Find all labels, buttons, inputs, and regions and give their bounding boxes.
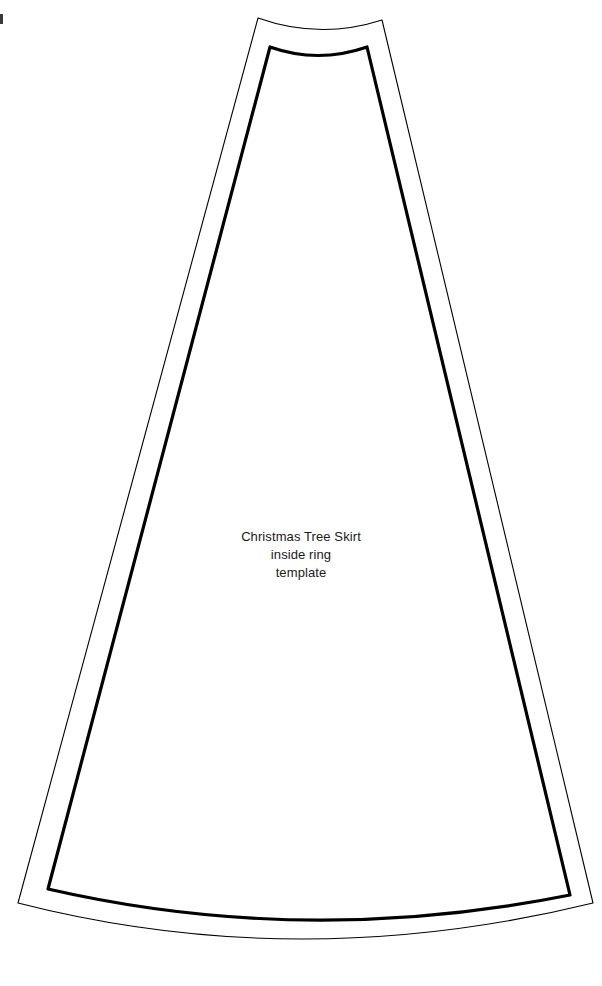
scan-edge-mark — [0, 14, 3, 24]
inner-sewing-line — [48, 47, 570, 920]
outer-cutting-line — [18, 18, 593, 939]
template-label: Christmas Tree Skirt inside ring templat… — [0, 528, 602, 582]
template-page: Christmas Tree Skirt inside ring templat… — [0, 0, 602, 986]
template-label-line-3: template — [0, 564, 602, 582]
template-label-line-2: inside ring — [0, 546, 602, 564]
template-label-line-1: Christmas Tree Skirt — [0, 528, 602, 546]
tree-skirt-template-drawing — [0, 0, 602, 986]
